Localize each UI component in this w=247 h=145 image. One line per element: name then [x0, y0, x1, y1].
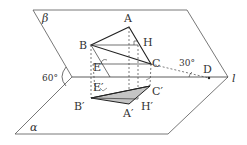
right-angle-c1: [146, 78, 150, 80]
label-angle-60: 60°: [42, 73, 58, 83]
label-b: B: [79, 39, 87, 52]
label-c-prime: C′: [152, 85, 163, 98]
label-a: A: [123, 12, 133, 25]
label-h-prime: H′: [141, 100, 154, 113]
geometry-diagram: β α l A B C H E D A′ B′ C′ H′ E′ 60° 30°: [0, 0, 247, 145]
triangle-abc: [91, 27, 151, 64]
label-b-prime: B′: [74, 100, 85, 113]
label-e-prime: E′: [93, 81, 104, 94]
label-e: E: [93, 61, 101, 74]
label-l: l: [232, 72, 236, 85]
plane-alpha-outline: [15, 77, 228, 134]
label-a-prime: A′: [122, 107, 134, 120]
label-beta: β: [41, 12, 48, 25]
label-angle-30: 30°: [179, 58, 195, 68]
point-d: [208, 77, 210, 79]
angle-30-arc: [189, 72, 192, 77]
label-alpha: α: [30, 121, 38, 134]
label-h: H: [143, 36, 153, 49]
label-c: C: [152, 57, 160, 70]
label-d: D: [203, 63, 212, 76]
